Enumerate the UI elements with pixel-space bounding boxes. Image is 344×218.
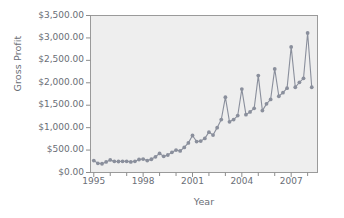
data-point xyxy=(215,126,219,130)
data-point xyxy=(174,148,178,152)
data-point xyxy=(112,159,116,163)
data-point xyxy=(277,94,281,98)
data-point xyxy=(223,95,227,99)
data-point xyxy=(141,157,145,161)
data-point xyxy=(125,159,129,163)
data-point xyxy=(289,45,293,49)
data-point xyxy=(121,159,125,163)
data-point xyxy=(158,152,162,156)
data-point xyxy=(293,85,297,89)
data-point xyxy=(273,67,277,71)
data-point xyxy=(145,159,149,163)
data-point xyxy=(244,113,248,117)
data-point xyxy=(260,109,264,113)
data-point xyxy=(228,120,232,124)
data-point xyxy=(306,31,310,35)
data-point xyxy=(137,158,141,162)
data-point xyxy=(154,155,158,159)
data-point xyxy=(129,160,133,164)
data-point xyxy=(117,160,121,164)
data-point xyxy=(182,145,186,149)
data-point xyxy=(178,149,182,153)
data-point xyxy=(211,133,215,137)
data-point xyxy=(207,130,211,134)
data-point xyxy=(256,74,260,78)
data-point xyxy=(232,118,236,122)
data-point xyxy=(162,154,166,158)
data-point xyxy=(248,110,252,114)
data-point xyxy=(298,80,302,84)
data-point xyxy=(252,106,256,110)
data-point xyxy=(285,86,289,90)
data-point xyxy=(92,159,96,163)
data-point xyxy=(149,157,153,161)
data-point xyxy=(195,140,199,144)
data-point xyxy=(219,118,223,122)
data-point xyxy=(302,76,306,80)
data-point xyxy=(166,153,170,157)
data-point xyxy=(133,159,137,163)
data-point xyxy=(236,114,240,118)
data-point xyxy=(100,162,104,166)
data-point xyxy=(265,102,269,106)
data-point xyxy=(186,141,190,145)
data-point xyxy=(310,85,314,89)
data-point xyxy=(96,161,100,165)
data-point xyxy=(281,91,285,95)
data-point xyxy=(191,134,195,138)
data-point xyxy=(203,137,207,141)
data-point xyxy=(240,87,244,91)
gross-profit-chart: Gross Profit Year $3,500.00$3,000.00$2,5… xyxy=(0,0,344,218)
data-point xyxy=(108,158,112,162)
data-point xyxy=(199,139,203,143)
data-point xyxy=(104,160,108,164)
plot-area xyxy=(0,0,344,218)
data-point xyxy=(269,97,273,101)
data-point xyxy=(170,150,174,154)
